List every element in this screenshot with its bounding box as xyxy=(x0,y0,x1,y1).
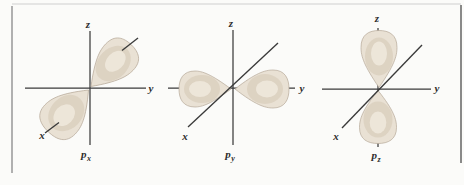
orbital-label-sub: y xyxy=(230,154,235,163)
lobe-highlight xyxy=(370,112,387,134)
orbital-lobe-upper xyxy=(77,32,145,100)
panel-py: z y x py xyxy=(168,17,305,163)
x-axis-label: x xyxy=(332,130,339,142)
z-axis-label: z xyxy=(374,12,380,24)
orbital-label-sub: x xyxy=(86,154,91,163)
orbital-label-px: px xyxy=(80,148,91,163)
panel-px: z y x px xyxy=(25,18,154,163)
orbitals-canvas: z y x px z y x py xyxy=(0,0,464,185)
orbital-label-base: p xyxy=(224,148,231,160)
lobe-highlight xyxy=(189,81,211,97)
orbital-label-sub: z xyxy=(376,155,381,164)
z-axis-label: z xyxy=(85,18,91,30)
y-axis-label: y xyxy=(433,82,440,94)
lobe-highlight xyxy=(256,81,278,98)
lobe-highlight xyxy=(371,42,387,66)
z-axis-label: z xyxy=(228,17,234,29)
orbital-label-base: p xyxy=(80,148,87,160)
orbital-lobe-bottom xyxy=(360,91,397,144)
y-axis-label: y xyxy=(147,82,154,94)
x-axis-label: x xyxy=(181,130,188,142)
orbital-lobe-top xyxy=(361,31,397,88)
p-orbitals-figure: z y x px z y x py xyxy=(0,0,464,185)
orbital-label-base: p xyxy=(370,149,377,161)
orbital-lobe-left xyxy=(179,71,231,107)
y-axis-label: y xyxy=(298,82,305,94)
panel-pz: z y x pz xyxy=(322,12,440,164)
orbital-label-pz: pz xyxy=(370,149,381,164)
x-axis-label: x xyxy=(38,129,45,141)
orbital-label-py: py xyxy=(224,148,235,163)
